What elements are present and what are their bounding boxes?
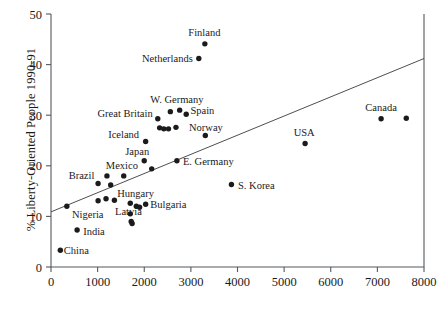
- point-label-s-korea: S. Korea: [238, 180, 275, 191]
- y-tick-label: 40: [30, 58, 43, 72]
- point-label-china: China: [64, 245, 89, 256]
- point-label-brazil: Brazil: [69, 170, 95, 181]
- data-point: [129, 221, 134, 226]
- point-label-bulgaria: Bulgaria: [150, 199, 186, 210]
- data-point: [104, 173, 109, 178]
- point-label-great-britain: Great Britain: [98, 108, 154, 119]
- point-label-india: India: [83, 226, 105, 237]
- point-label-nigeria: Nigeria: [72, 209, 104, 220]
- point-labels-group: ChinaIndiaNigeriaBrazilMexicoHungaryLatv…: [64, 27, 397, 256]
- data-point: [173, 125, 178, 130]
- data-point-great-britain: [155, 116, 160, 121]
- plot-area: ChinaIndiaNigeriaBrazilMexicoHungaryLatv…: [0, 0, 439, 319]
- x-tick-label: 0: [48, 275, 54, 289]
- scatter-plot-figure: % Liberty-Oriented People 1990-91 ChinaI…: [0, 0, 439, 319]
- x-tick-labels-group: 010002000300040005000600070008000: [48, 275, 437, 289]
- point-label-norway: Norway: [189, 122, 224, 133]
- data-point-bulgaria: [143, 202, 148, 207]
- data-point: [166, 126, 171, 131]
- data-point-nigeria: [64, 204, 69, 209]
- y-tick-labels-group: 01020304050: [30, 8, 43, 275]
- y-tick-label: 30: [30, 109, 43, 123]
- data-point-canada: [378, 116, 383, 121]
- x-tick-label: 2000: [132, 275, 157, 289]
- data-point: [108, 182, 113, 187]
- point-label-hungary: Hungary: [117, 188, 154, 199]
- data-point-china: [58, 248, 63, 253]
- point-label-spain: Spain: [190, 105, 215, 116]
- point-label-canada: Canada: [365, 102, 397, 113]
- data-points-group: [58, 41, 409, 253]
- data-point-mexico: [121, 173, 126, 178]
- data-point-e-germany: [174, 158, 179, 163]
- point-label-e-germany: E. Germany: [183, 156, 234, 167]
- point-label-netherlands: Netherlands: [142, 53, 193, 64]
- data-point-japan: [142, 158, 147, 163]
- x-tick-label: 4000: [225, 275, 250, 289]
- point-label-japan: Japan: [125, 146, 150, 157]
- data-point-s-korea: [229, 182, 234, 187]
- x-tick-label: 3000: [178, 275, 203, 289]
- x-tick-label: 8000: [412, 275, 437, 289]
- point-label-iceland: Iceland: [108, 129, 140, 140]
- point-label-latvia: Latvia: [115, 206, 142, 217]
- data-point-finland: [202, 41, 207, 46]
- y-tick-label: 10: [30, 210, 43, 224]
- point-label-mexico: Mexico: [106, 160, 138, 171]
- x-tick-label: 6000: [318, 275, 343, 289]
- data-point-iceland: [143, 139, 148, 144]
- axis-frame: [51, 14, 424, 267]
- data-point-spain: [184, 111, 189, 116]
- data-point-netherlands: [196, 56, 201, 61]
- data-point: [95, 198, 100, 203]
- x-tick-label: 5000: [272, 275, 297, 289]
- data-point: [103, 196, 108, 201]
- y-tick-label: 20: [30, 159, 43, 173]
- y-tick-label: 0: [36, 261, 42, 275]
- data-point-w-germany: [177, 107, 182, 112]
- data-point: [404, 116, 409, 121]
- x-tick-label: 1000: [85, 275, 110, 289]
- data-point: [149, 166, 154, 171]
- x-tick-label: 7000: [365, 275, 390, 289]
- data-point-brazil: [95, 181, 100, 186]
- point-label-w-germany: W. Germany: [150, 94, 204, 105]
- data-point-india: [74, 227, 79, 232]
- data-point: [168, 109, 173, 114]
- data-point-norway: [203, 133, 208, 138]
- data-point: [157, 125, 162, 130]
- point-label-usa: USA: [294, 127, 315, 138]
- data-point-usa: [302, 141, 307, 146]
- point-label-finland: Finland: [188, 27, 221, 38]
- y-tick-label: 50: [30, 8, 43, 22]
